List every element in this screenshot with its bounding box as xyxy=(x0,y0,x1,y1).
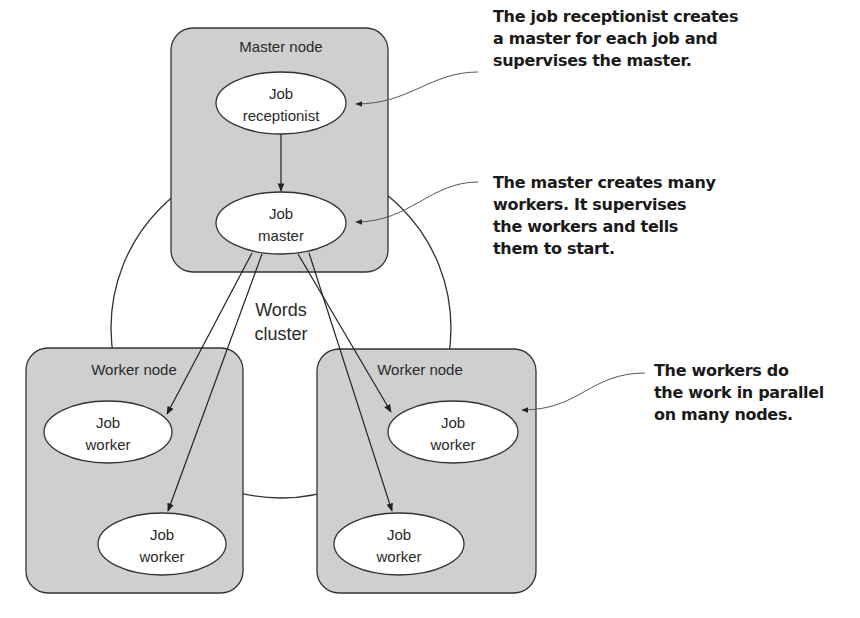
worker-node-right: Worker node Job worker Job worker xyxy=(317,349,536,593)
svg-text:Job: Job xyxy=(150,526,174,543)
job-receptionist-ellipse: Job receptionist xyxy=(216,72,346,134)
svg-text:Job: Job xyxy=(96,414,120,431)
worker-node-left: Worker node Job worker Job worker xyxy=(26,348,243,593)
svg-text:worker: worker xyxy=(138,548,184,565)
svg-text:worker: worker xyxy=(84,436,130,453)
job-worker-ellipse: Job worker xyxy=(334,513,464,575)
svg-text:Job: Job xyxy=(269,85,293,102)
callout-master: The master creates many workers. It supe… xyxy=(493,172,716,260)
words-cluster-label-2: cluster xyxy=(254,324,307,344)
master-node-label: Master node xyxy=(239,38,322,55)
diagram-canvas: Master node Job receptionist Job master … xyxy=(0,0,860,618)
job-worker-ellipse: Job worker xyxy=(98,513,226,575)
job-master-ellipse: Job master xyxy=(216,192,346,254)
worker-node-right-label: Worker node xyxy=(377,361,463,378)
svg-text:Job: Job xyxy=(441,414,465,431)
svg-text:worker: worker xyxy=(375,548,421,565)
worker-node-left-label: Worker node xyxy=(91,361,177,378)
svg-text:master: master xyxy=(258,227,304,244)
job-worker-ellipse: Job worker xyxy=(44,401,172,463)
words-cluster-label: Words xyxy=(255,300,307,320)
job-worker-ellipse: Job worker xyxy=(388,401,518,463)
svg-text:receptionist: receptionist xyxy=(243,107,321,124)
callout-receptionist: The job receptionist creates a master fo… xyxy=(493,6,738,72)
svg-text:worker: worker xyxy=(429,436,475,453)
svg-text:Job: Job xyxy=(269,205,293,222)
callout-workers: The workers do the work in parallel on m… xyxy=(654,360,824,426)
master-node: Master node Job receptionist Job master xyxy=(171,28,388,272)
svg-text:Job: Job xyxy=(387,526,411,543)
